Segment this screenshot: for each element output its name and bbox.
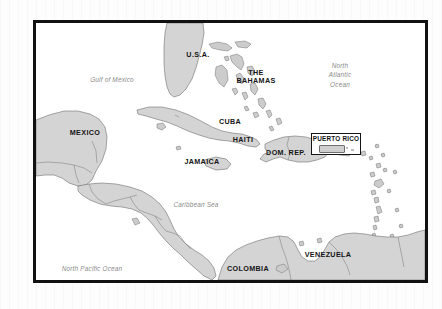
culebra-islet-shape [351, 149, 354, 151]
landmass-cayman-islands [176, 146, 181, 150]
vieques-islet-shape [346, 147, 348, 149]
puerto-rico-inset-box: PUERTO RICO [311, 133, 361, 155]
map-geography-canvas: .land { fill: #d4d4d4; stroke: #6f6f6f; … [36, 23, 425, 280]
puerto-rico-inset-title: PUERTO RICO [312, 135, 360, 142]
map-frame-border: .land { fill: #d4d4d4; stroke: #6f6f6f; … [33, 20, 428, 283]
puerto-rico-island-shape [319, 145, 345, 153]
map-page: .land { fill: #d4d4d4; stroke: #6f6f6f; … [0, 0, 442, 309]
